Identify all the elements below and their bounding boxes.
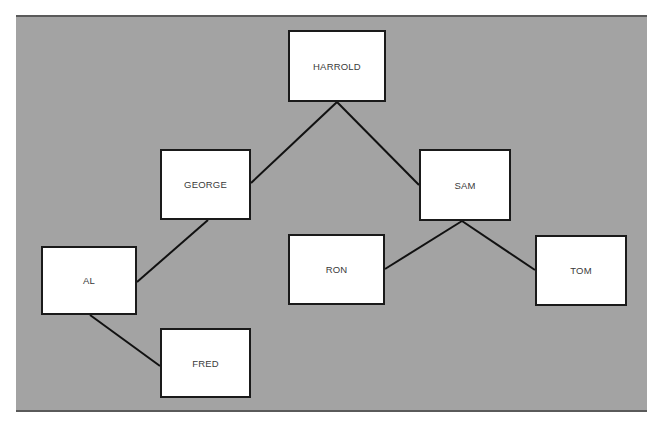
edge-harrold-george — [251, 102, 337, 183]
edge-al-fred — [90, 315, 160, 366]
node-label: AL — [83, 275, 95, 286]
node-tom: TOM — [535, 235, 627, 306]
edge-sam-tom — [462, 221, 535, 270]
node-label: TOM — [570, 265, 592, 276]
edge-harrold-sam — [337, 102, 419, 185]
node-ron: RON — [288, 234, 385, 305]
node-label: SAM — [454, 180, 475, 191]
node-fred: FRED — [160, 328, 251, 398]
node-label: GEORGE — [184, 179, 227, 190]
node-label: RON — [326, 264, 348, 275]
node-label: FRED — [192, 358, 219, 369]
edge-sam-ron — [385, 221, 462, 269]
node-george: GEORGE — [160, 149, 251, 220]
node-al: AL — [41, 246, 137, 315]
node-sam: SAM — [419, 149, 511, 221]
node-label: HARROLD — [313, 61, 361, 72]
edge-george-al — [137, 220, 208, 282]
node-harrold: HARROLD — [288, 30, 386, 102]
